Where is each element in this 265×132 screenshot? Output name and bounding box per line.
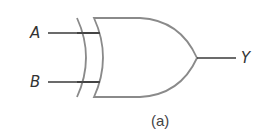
output-y-label: Y [241,51,250,66]
input-b-label: B [30,75,40,90]
xor-input-arc [77,18,86,97]
gate-body [94,18,197,97]
xor-gate-diagram [0,0,265,132]
input-a-label: A [30,26,40,41]
figure-caption: (a) [151,113,169,128]
